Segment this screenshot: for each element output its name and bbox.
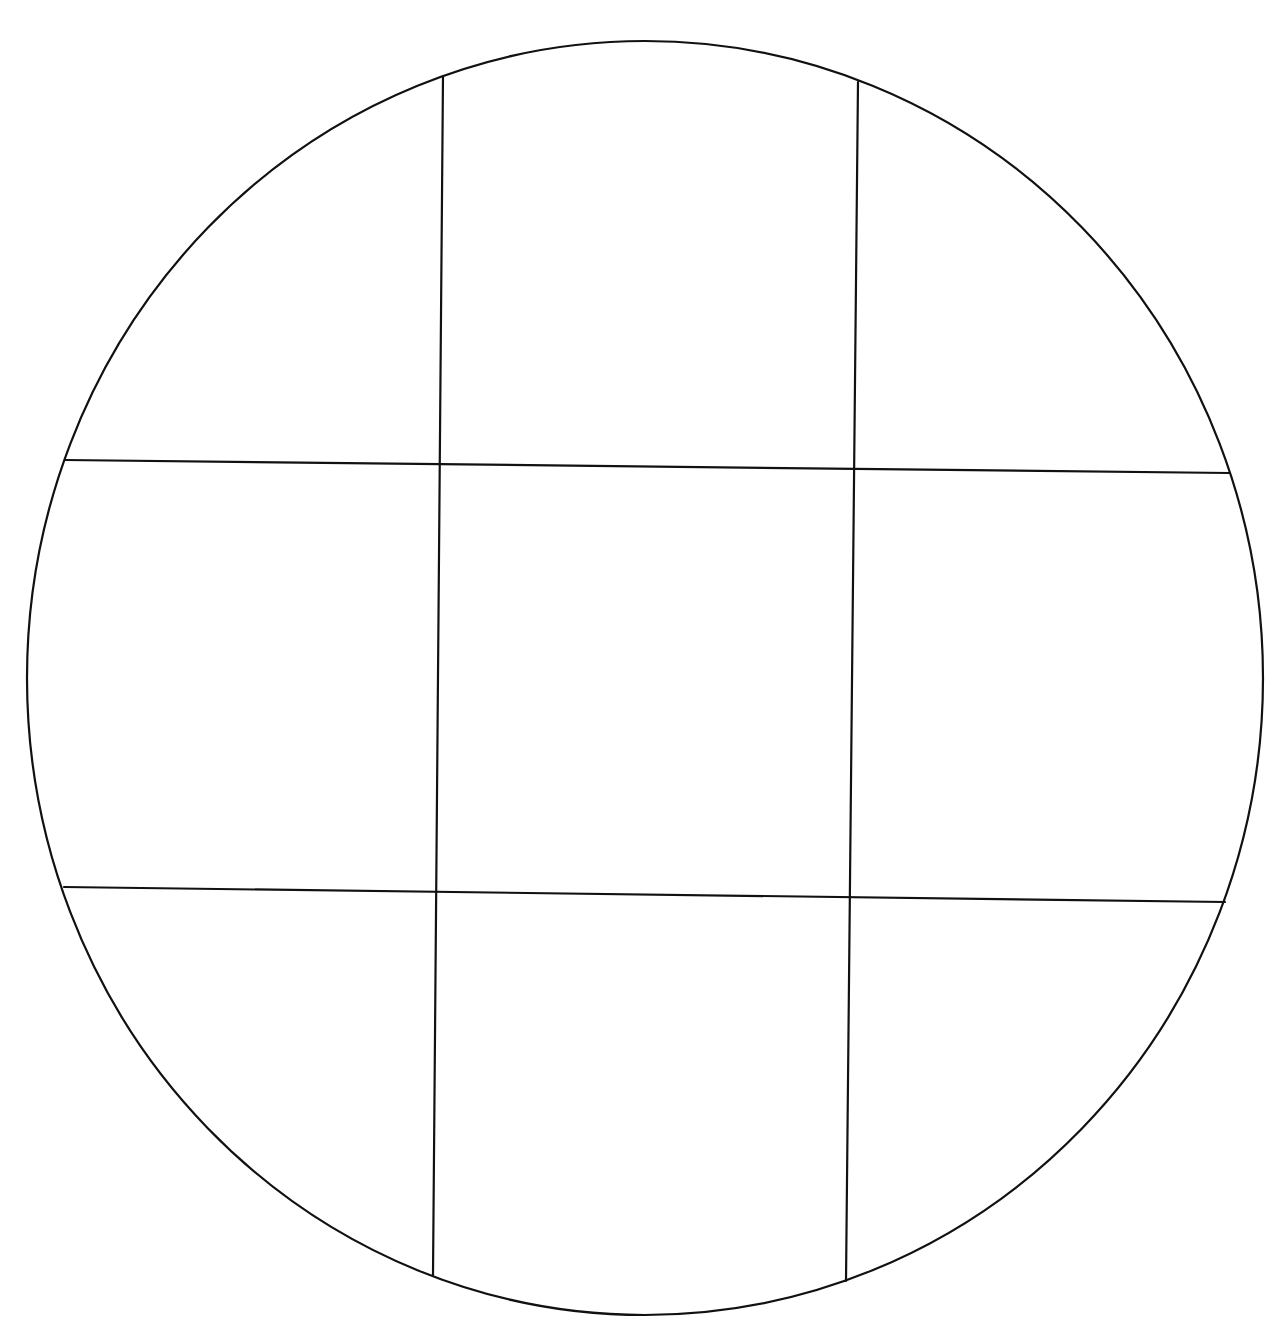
outer-circle xyxy=(27,41,1263,1315)
circle-grid-diagram xyxy=(0,0,1276,1340)
vertical-divider-left xyxy=(433,76,443,1275)
horizontal-divider-bottom xyxy=(64,887,1225,902)
horizontal-divider-top xyxy=(65,460,1229,473)
vertical-divider-right xyxy=(846,82,858,1281)
